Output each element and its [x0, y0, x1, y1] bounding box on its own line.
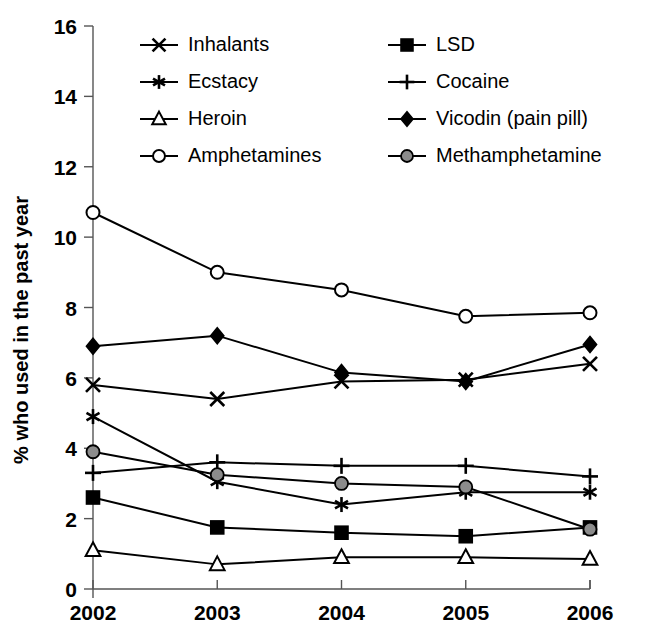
y-tick-label: 0 [65, 578, 77, 601]
marker-gray-circle [335, 477, 348, 490]
x-tick-label: 2003 [194, 601, 241, 624]
y-tick-label: 2 [65, 508, 77, 531]
x-tick-label: 2006 [567, 601, 614, 624]
y-tick-label: 10 [54, 226, 77, 249]
legend-label: Heroin [188, 107, 247, 129]
legend-label: Inhalants [188, 33, 269, 55]
x-tick-label: 2002 [70, 601, 117, 624]
marker-open-circle [87, 206, 100, 219]
marker-gray-circle [87, 445, 100, 458]
marker-open-circle [459, 310, 472, 323]
marker-open-circle [153, 150, 165, 162]
y-tick-label: 6 [65, 367, 77, 390]
y-tick-label: 12 [54, 156, 77, 179]
marker-gray-circle [584, 523, 597, 536]
y-tick-label: 4 [65, 437, 77, 460]
x-tick-label: 2005 [442, 601, 489, 624]
marker-filled-square [87, 491, 100, 504]
y-tick-label: 16 [54, 15, 77, 38]
chart-container: 024681012141620022003200420052006 Inhala… [0, 0, 661, 627]
y-axis-title: % who used in the past year [10, 196, 32, 464]
marker-open-circle [584, 306, 597, 319]
legend-label: Ecstacy [188, 70, 258, 92]
marker-gray-circle [211, 468, 224, 481]
line-chart: 024681012141620022003200420052006 Inhala… [0, 0, 661, 627]
marker-filled-square [401, 39, 413, 51]
marker-gray-circle [401, 150, 413, 162]
marker-filled-square [459, 530, 472, 543]
marker-gray-circle [459, 480, 472, 493]
legend-label: LSD [436, 33, 475, 55]
marker-filled-square [335, 526, 348, 539]
legend-label: Methamphetamine [436, 144, 602, 166]
legend-label: Amphetamines [188, 144, 321, 166]
x-tick-label: 2004 [318, 601, 365, 624]
marker-open-circle [211, 266, 224, 279]
marker-filled-square [211, 521, 224, 534]
legend-label: Cocaine [436, 70, 509, 92]
y-tick-label: 8 [65, 297, 77, 320]
y-tick-label: 14 [54, 85, 78, 108]
legend-label: Vicodin (pain pill) [436, 107, 588, 129]
marker-open-circle [335, 283, 348, 296]
